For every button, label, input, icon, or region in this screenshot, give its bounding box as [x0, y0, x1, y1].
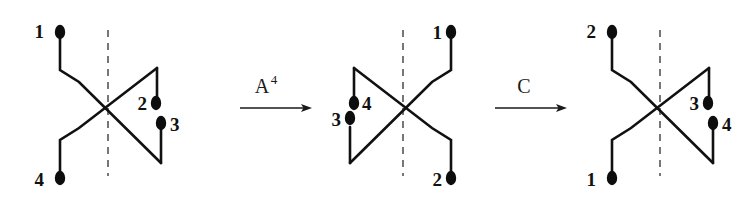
diagram-left: 1 2 3 4: [35, 21, 180, 190]
arrow-label-a-exponent: 4: [271, 72, 278, 87]
endpoint-node-3-right: [703, 96, 713, 110]
endpoint-label-3-right: 3: [690, 93, 700, 114]
endpoint-node-2-middle: [446, 171, 456, 185]
endpoint-node-4-middle: [349, 96, 359, 110]
arrow-c: C: [495, 75, 567, 112]
endpoint-label-3: 3: [170, 114, 180, 135]
endpoint-label-2-middle: 2: [433, 169, 443, 190]
endpoint-label-2: 2: [138, 93, 148, 114]
endpoint-node-2-right: [607, 25, 617, 39]
endpoint-label-1-middle: 1: [433, 22, 443, 43]
endpoint-label-3-middle: 3: [332, 109, 342, 130]
endpoint-label-4-middle: 4: [362, 93, 372, 114]
endpoint-node-1: [55, 25, 65, 39]
endpoint-node-1-middle: [446, 25, 456, 39]
endpoint-label-2-right: 2: [587, 21, 597, 42]
endpoint-label-1-right: 1: [587, 169, 597, 190]
arrow-label-c: C: [517, 75, 530, 97]
endpoint-node-2: [151, 96, 161, 110]
diagram-right: 2 3 4 1: [587, 21, 733, 190]
diagram-middle: 1 4 3 2: [332, 22, 457, 190]
endpoint-node-4: [55, 171, 65, 185]
endpoint-node-3-middle: [345, 111, 355, 125]
endpoint-label-1: 1: [35, 21, 45, 42]
arrow-label-a: A: [255, 75, 270, 97]
arrow-a-power-4: A 4: [240, 72, 312, 112]
endpoint-node-3: [156, 116, 166, 130]
endpoint-node-1-right: [607, 171, 617, 185]
endpoint-label-4: 4: [35, 169, 45, 190]
tangle-transformation-figure: 1 2 3 4 A 4 1 4 3 2 C: [0, 0, 747, 211]
endpoint-node-4-right: [708, 116, 718, 130]
endpoint-label-4-right: 4: [722, 114, 732, 135]
